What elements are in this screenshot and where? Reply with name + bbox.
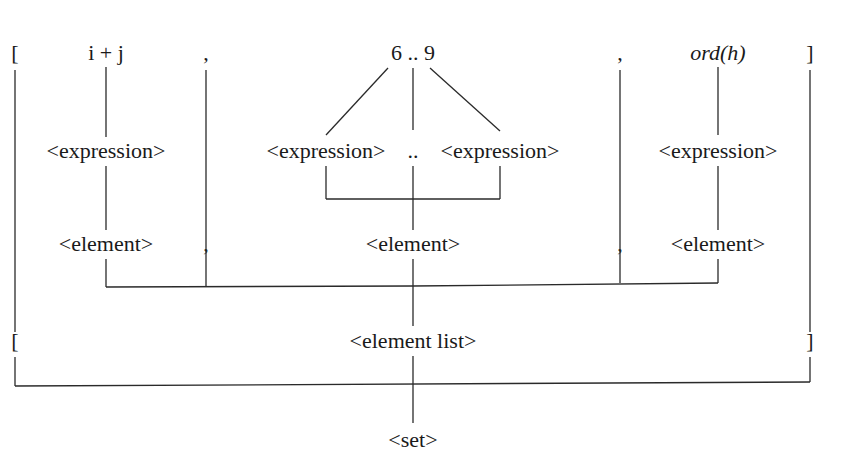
edge-range-high <box>430 68 500 131</box>
parse-tree-diagram: [ i + j , 6 .. 9 , ord(h) ] <expression>… <box>0 0 855 471</box>
token-close-bracket: ] <box>806 40 813 65</box>
token-range-6-9: 6 .. 9 <box>391 40 435 65</box>
token-ord-h: ord(h) <box>690 40 745 65</box>
token-expr-i-plus-j: i + j <box>88 40 124 65</box>
element-label-3: <element> <box>671 231 765 256</box>
expression-label-1: <expression> <box>47 138 166 163</box>
expression-label-range-high: <expression> <box>441 138 560 163</box>
expression-label-range-low: <expression> <box>267 138 386 163</box>
edge-element-join-right <box>413 283 718 286</box>
token-open-bracket: [ <box>11 40 18 65</box>
expression-label-3: <expression> <box>659 138 778 163</box>
edge-element-join-left <box>106 286 413 287</box>
edge-range-low <box>326 68 388 135</box>
element-list-label: <element list> <box>350 328 477 353</box>
element-label-2: <element> <box>366 231 460 256</box>
token-comma-1: , <box>203 40 209 65</box>
set-label: <set> <box>388 427 437 452</box>
range-dots: .. <box>408 138 419 163</box>
element-label-1: <element> <box>59 231 153 256</box>
token-comma-2: , <box>617 40 623 65</box>
